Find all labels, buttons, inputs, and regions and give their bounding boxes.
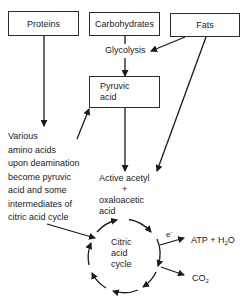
note-line: intermediates of	[8, 198, 80, 212]
cycle-line: acid	[111, 248, 132, 259]
cycle-arc-7	[88, 243, 91, 265]
cycle-arc-2	[129, 220, 151, 233]
note-line: amino acids	[8, 144, 80, 158]
acetyl-line: Active acetyl	[99, 173, 150, 184]
plus-sign: +	[99, 184, 150, 195]
note-line: Various	[8, 130, 80, 144]
oxygen-text: O	[228, 235, 235, 245]
cycle-arc-1	[97, 220, 117, 232]
note-line: citric acid cycle	[8, 211, 80, 225]
note-line: become pyruvic	[8, 171, 80, 185]
carbohydrates-box: Carbohydrates	[89, 12, 160, 36]
cycle-line: Citric	[111, 237, 132, 248]
note-line: acid and some	[8, 184, 80, 198]
cycle-arc-4	[143, 272, 156, 287]
electron-charge: -	[170, 229, 172, 235]
proteins-label: Proteins	[27, 19, 60, 29]
fats-label: Fats	[196, 20, 214, 30]
acid-line: acid	[99, 206, 150, 217]
citric-acid-cycle-label: Citric acid cycle	[111, 237, 132, 270]
co2-subscript: 2	[206, 278, 209, 284]
cycle-arc-6	[92, 273, 106, 288]
pyruvic-line-2: acid	[100, 92, 117, 103]
cycle-arc-3	[157, 239, 160, 266]
pyruvic-line-1: Pyruvic	[100, 81, 130, 92]
acetyl-oxaloacetic-label: Active acetyl + oxaloacetic acid	[99, 173, 150, 217]
cycle-arc-5	[113, 290, 138, 293]
atp-h2o-label: ATP + H2O	[191, 235, 235, 246]
proteins-box: Proteins	[8, 11, 79, 36]
atp-text: ATP + H	[191, 235, 224, 245]
arrow-fats-to-acetyl	[157, 37, 206, 171]
fats-box: Fats	[170, 13, 240, 37]
pyruvic-acid-box: Pyruvic acid	[89, 76, 160, 108]
arrow-cycle-to-co2	[161, 267, 184, 275]
co-text: CO	[192, 273, 206, 283]
cycle-line: cycle	[111, 259, 132, 270]
oxaloacetic-line: oxaloacetic	[99, 195, 150, 206]
electron-label: e-	[166, 229, 172, 240]
arrow-amino-to-cycle	[47, 224, 95, 238]
carbohydrates-label: Carbohydrates	[95, 19, 154, 29]
glycolysis-label: Glycolysis	[104, 44, 147, 58]
co2-label: CO2	[192, 273, 209, 284]
arrow-fats-to-glycolysis	[151, 37, 185, 51]
amino-acids-note: Various amino acids upon deamination bec…	[8, 130, 80, 225]
note-line: upon deamination	[8, 157, 80, 171]
